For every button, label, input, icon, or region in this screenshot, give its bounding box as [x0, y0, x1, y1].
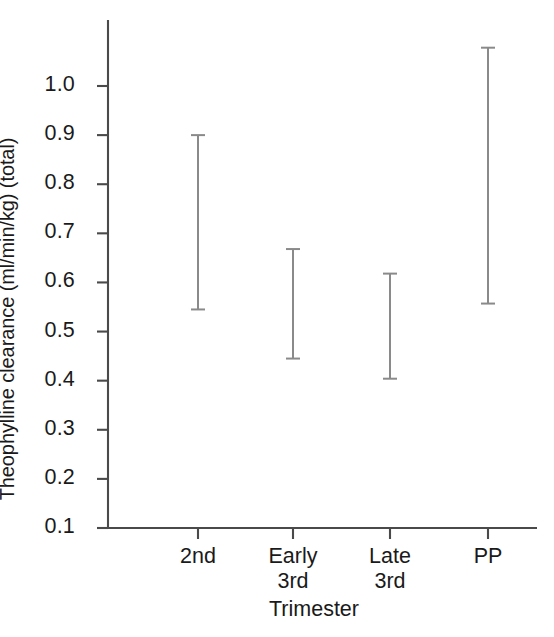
- y-axis-title: Theophylline clearance (ml/min/kg) (tota…: [0, 84, 19, 554]
- axes: [108, 20, 537, 528]
- x-axis-ticks: [198, 528, 488, 539]
- x-tick-label-3: PP: [418, 544, 554, 569]
- error-bars: [191, 48, 495, 379]
- theophylline-clearance-chart: 1.00.90.80.70.60.50.40.30.20.1 2ndEarly …: [0, 0, 554, 637]
- y-tick-label-text-7: 0.3: [45, 416, 76, 441]
- y-tick-label-text-4: 0.6: [45, 268, 76, 293]
- y-axis-ticks: [97, 86, 108, 528]
- y-tick-label-text-5: 0.5: [45, 318, 76, 343]
- y-tick-label-text-2: 0.8: [45, 170, 76, 195]
- y-tick-label-text-6: 0.4: [45, 367, 76, 392]
- y-tick-label-text-8: 0.2: [45, 465, 76, 490]
- plot-area: [0, 0, 554, 637]
- y-tick-label-text-9: 0.1: [45, 514, 76, 539]
- y-tick-label-text-3: 0.7: [45, 219, 76, 244]
- x-axis-title: Trimester: [0, 597, 554, 622]
- y-tick-label-text-0: 1.0: [45, 72, 76, 97]
- x-axis-title-text: Trimester: [269, 597, 359, 621]
- y-tick-label-text-1: 0.9: [45, 121, 76, 146]
